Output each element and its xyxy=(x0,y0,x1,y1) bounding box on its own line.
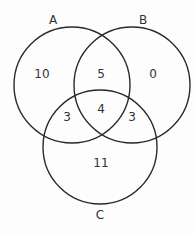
region-value-a-only: 10 xyxy=(34,67,49,81)
region-value-c-only: 11 xyxy=(93,156,108,170)
region-value-b-only: 0 xyxy=(149,67,157,81)
set-circle-a xyxy=(14,27,130,143)
set-label-a: A xyxy=(49,13,58,27)
set-label-b: B xyxy=(139,13,147,27)
region-value-a-and-c-only: 3 xyxy=(63,110,71,124)
region-value-a-and-b-and-c: 4 xyxy=(97,102,105,116)
venn-diagram: ABC 105043311 xyxy=(0,0,195,234)
region-value-a-and-b-only: 5 xyxy=(97,67,105,81)
set-label-c: C xyxy=(96,208,104,222)
set-circle-b xyxy=(74,27,190,143)
region-value-b-and-c-only: 3 xyxy=(128,110,136,124)
